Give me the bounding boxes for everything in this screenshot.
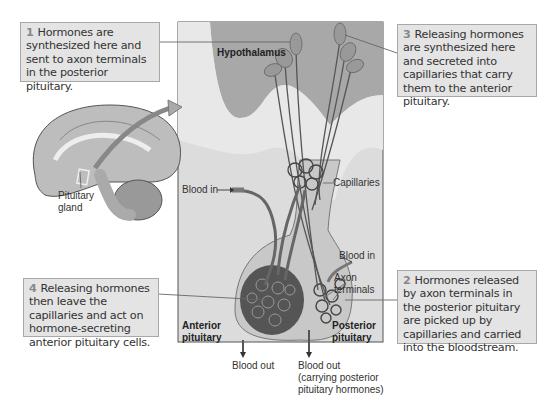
hypothalamus-label: Hypothalamus: [217, 47, 286, 59]
blood-in-right-label: Blood in: [339, 250, 375, 262]
callout-number: 3: [403, 28, 411, 41]
callout-1: 1Hormones are synthesized here and sent …: [20, 22, 160, 82]
posterior-line-1: Posterior: [332, 320, 376, 332]
axon-terminals-label: Axon terminals: [334, 272, 375, 296]
callout-3: 3Releasing hormones are synthesized here…: [397, 24, 537, 97]
anterior-pituitary-label: Anterior pituitary: [182, 320, 221, 344]
callout-number: 1: [26, 26, 34, 39]
callout-text: Releasing hormones then leave the capill…: [29, 282, 150, 349]
axon-terminals-line-2: terminals: [334, 284, 375, 296]
pituitary-gland-line-1: Pituitary: [58, 190, 94, 202]
callout-number: 2: [403, 274, 411, 287]
callout-number: 4: [29, 282, 37, 295]
axon-terminals-line-1: Axon: [334, 272, 375, 284]
blood-in-left-label: Blood in: [182, 184, 218, 196]
posterior-pituitary-label: Posterior pituitary: [332, 320, 376, 344]
anterior-capillary-bed: [240, 265, 304, 335]
anterior-line-2: pituitary: [182, 332, 221, 344]
posterior-line-2: pituitary: [332, 332, 376, 344]
blood-out-right-line-2: (carrying posterior: [298, 372, 384, 384]
pituitary-gland-line-2: gland: [58, 202, 94, 214]
pituitary-gland-label: Pituitary gland: [58, 190, 94, 214]
blood-out-right-line-1: Blood out: [298, 360, 384, 372]
callout-text: Releasing hormones are synthesized here …: [403, 28, 524, 108]
brain-illustration: [33, 105, 180, 220]
callout-4: 4Releasing hormones then leave the capil…: [23, 278, 159, 337]
blood-out-right-label: Blood out (carrying posterior pituitary …: [298, 360, 384, 396]
callout-2: 2Hormones released by axon terminals in …: [397, 270, 537, 344]
blood-out-right-line-3: pituitary hormones): [298, 384, 384, 396]
anterior-line-1: Anterior: [182, 320, 221, 332]
capillaries-label: Capillaries: [333, 177, 380, 189]
neuron-body: [290, 33, 302, 55]
blood-out-left-label: Blood out: [232, 360, 274, 372]
callout-text: Hormones released by axon terminals in t…: [403, 274, 521, 354]
